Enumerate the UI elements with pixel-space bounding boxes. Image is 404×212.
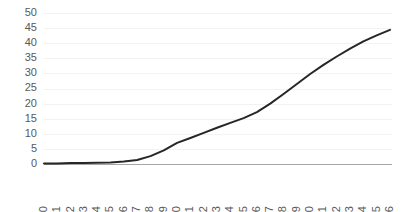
x-axis-tick-label: 2001 [183,206,195,212]
x-axis-tick-label: 2006 [250,206,262,212]
y-axis-tick-label: 50 [25,6,37,18]
x-axis-tick-label: 1997 [130,206,142,212]
y-axis-tick-label: 45 [25,21,37,33]
x-axis-tick-label: 2013 [343,206,355,212]
x-axis-tick-label: 2009 [290,206,302,212]
x-axis-tick-label: 1998 [143,206,155,212]
line-chart: 05101520253035404550 1990199119921993199… [0,0,404,212]
x-axis-tick-label: 1996 [117,206,129,212]
x-axis-tick-label: 2016 [383,206,395,212]
y-axis-tick-label: 10 [25,127,37,139]
x-axis-tick-label: 2000 [170,206,182,212]
y-axis-tick-label: 30 [25,66,37,78]
x-axis-tick-label: 2003 [210,206,222,212]
y-axis-tick-label: 35 [25,51,37,63]
x-axis-tick-label: 2015 [370,206,382,212]
x-axis-tick-label: 1993 [77,206,89,212]
x-axis-tick-label: 1994 [90,206,102,212]
chart-canvas: 05101520253035404550 1990199119921993199… [0,0,404,212]
x-axis-tick-label: 2002 [197,206,209,212]
x-axis-tick-label: 1992 [64,206,76,212]
x-axis-tick-label: 2008 [276,206,288,212]
y-axis-tick-label: 15 [25,112,37,124]
y-axis-tick-label: 25 [25,81,37,93]
y-axis-tick-label: 0 [31,157,37,169]
x-axis-tick-label: 2012 [330,206,342,212]
x-axis-tick-label: 2005 [237,206,249,212]
x-axis-tick-label: 1990 [37,206,49,212]
x-axis-tick-label: 2010 [303,206,315,212]
y-axis-tick-label: 40 [25,36,37,48]
x-axis-tick-label: 2007 [263,206,275,212]
x-axis-tick-label: 1999 [157,206,169,212]
y-axis-tick-label: 20 [25,97,37,109]
chart-background [0,0,404,212]
x-axis-tick-label: 1995 [103,206,115,212]
x-axis-tick-labels: 1990199119921993199419951996199719981999… [37,206,395,212]
x-axis-tick-label: 2011 [316,206,328,212]
x-axis-tick-label: 1991 [50,206,62,212]
x-axis-tick-label: 2014 [356,206,368,212]
y-axis-tick-label: 5 [31,142,37,154]
x-axis-tick-label: 2004 [223,206,235,212]
